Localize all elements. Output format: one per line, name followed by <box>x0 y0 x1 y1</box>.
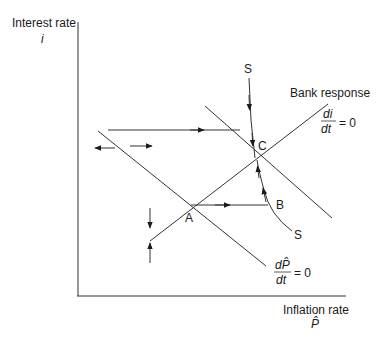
inflation-locus-line <box>98 131 266 266</box>
inflation-eq-rhs: = 0 <box>294 266 311 280</box>
bank-eq-denominator: dt <box>321 122 332 136</box>
bank-response-label: Bank response <box>290 86 370 100</box>
point-label-c: C <box>258 139 267 153</box>
shifted-locus-line <box>205 106 332 218</box>
bank-eq-rhs: = 0 <box>339 116 356 130</box>
point-label-s-top: S <box>244 62 252 76</box>
point-label-s-bottom: S <box>294 228 302 242</box>
point-label-b: B <box>276 198 284 212</box>
y-axis-symbol: i <box>41 32 44 46</box>
x-axis-symbol: P̂ <box>311 316 319 331</box>
bank-response-line <box>150 104 328 241</box>
y-axis-label: Interest rate <box>12 16 76 30</box>
point-label-a: A <box>185 211 193 225</box>
inflation-eq-denominator: dt <box>276 273 287 287</box>
inflation-eq-numerator: dP̂ <box>275 257 290 272</box>
bank-eq-numerator: di <box>323 107 333 121</box>
saddle-path-bottom <box>257 160 292 231</box>
phase-diagram: Interest rate i Inflation rate P̂ S C A … <box>0 0 380 346</box>
x-axis-label: Inflation rate <box>283 303 349 317</box>
saddle-top-arrow-icon-1 <box>249 95 250 110</box>
